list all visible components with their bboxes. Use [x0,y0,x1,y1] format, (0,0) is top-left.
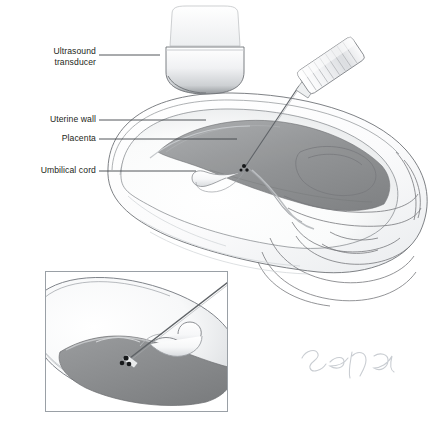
main-scene [108,6,427,306]
ultrasound-transducer [166,6,244,94]
label-umbilical-cord: Umbilical cord [8,165,96,176]
label-placenta: Placenta [12,133,96,144]
label-uterine-wall: Uterine wall [12,114,96,125]
label-ultrasound-transducer: Ultrasound transducer [12,46,96,68]
illustration-canvas: Ultrasound transducerUterine wallPlacent… [0,0,443,445]
magnified-detail [30,272,237,412]
artist-signature [302,351,394,378]
